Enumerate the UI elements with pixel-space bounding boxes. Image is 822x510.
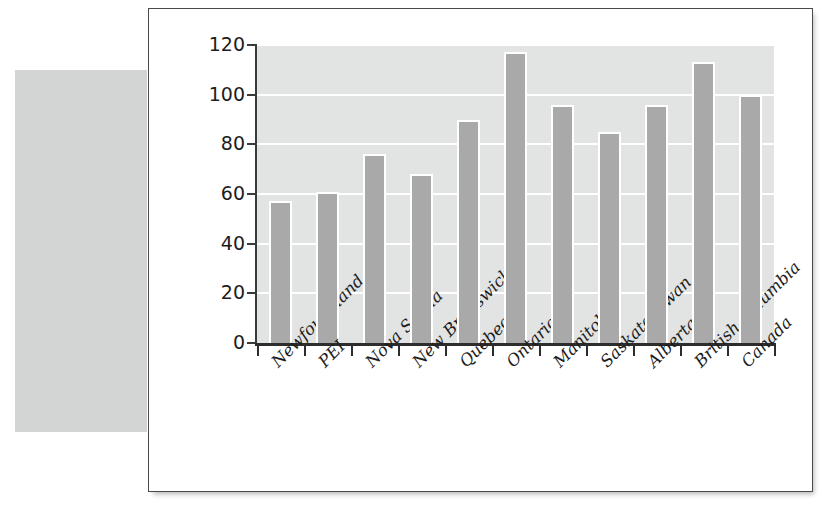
x-axis-tick <box>304 345 306 356</box>
y-axis-tick <box>247 44 255 46</box>
x-axis-tick <box>774 345 776 356</box>
x-axis-tick <box>398 345 400 356</box>
x-axis-tick <box>257 345 259 356</box>
bar <box>739 95 763 343</box>
y-axis-tick-label: 120 <box>179 35 245 54</box>
y-axis-tick <box>247 94 255 96</box>
bar <box>692 62 716 343</box>
y-axis-tick-label: 100 <box>179 85 245 104</box>
x-axis-tick <box>727 345 729 356</box>
bar <box>363 154 387 343</box>
y-axis-tick-label: 20 <box>179 283 245 302</box>
bar <box>598 132 622 343</box>
y-axis-labels: 020406080100120 <box>171 9 245 493</box>
figure-panel: 020406080100120 NewfoundlandPEINova Scot… <box>148 8 813 492</box>
x-axis-tick <box>445 345 447 356</box>
y-axis-tick <box>247 143 255 145</box>
x-axis-tick <box>633 345 635 356</box>
x-axis-tick <box>539 345 541 356</box>
bar <box>269 201 293 343</box>
x-axis-tick <box>351 345 353 356</box>
y-axis-tick-label: 60 <box>179 184 245 203</box>
y-axis-tick-label: 0 <box>179 333 245 352</box>
y-axis-tick <box>247 193 255 195</box>
bar <box>645 105 669 343</box>
x-axis-tick <box>680 345 682 356</box>
y-axis-tick <box>247 342 255 344</box>
y-axis-tick-label: 80 <box>179 134 245 153</box>
y-axis-tick-label: 40 <box>179 234 245 253</box>
y-axis-line <box>255 44 257 344</box>
gridline <box>257 44 774 46</box>
bar <box>316 192 340 343</box>
bar <box>504 52 528 343</box>
side-grey-block <box>15 70 147 432</box>
y-axis-tick <box>247 243 255 245</box>
bar <box>457 120 481 344</box>
x-axis-tick <box>586 345 588 356</box>
y-axis-tick <box>247 292 255 294</box>
bar <box>551 105 575 343</box>
bar <box>410 174 434 343</box>
x-axis-tick <box>492 345 494 356</box>
